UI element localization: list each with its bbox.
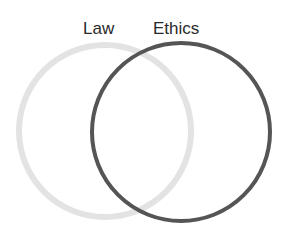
ethics-label: Ethics: [153, 20, 199, 37]
venn-svg: [0, 0, 285, 226]
law-label: Law: [83, 20, 114, 37]
venn-diagram: Law Ethics: [0, 0, 285, 226]
law-circle: [19, 45, 191, 217]
ethics-circle: [92, 43, 270, 221]
